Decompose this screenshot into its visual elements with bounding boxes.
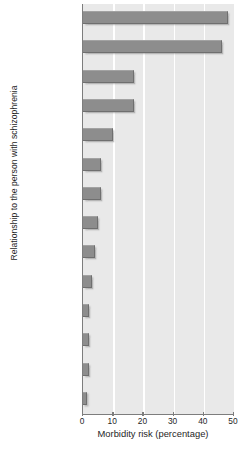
y-axis-title: Relationship to the person with schizoph… [9, 73, 19, 273]
bar [83, 40, 222, 53]
bar-rows: MZ twinsChild of twoaffected parentsDZ t… [83, 4, 234, 414]
bar [83, 70, 134, 83]
bar-row: DZ twins [83, 63, 234, 92]
bar-row: Grandchild [83, 209, 234, 238]
bar [83, 275, 92, 288]
bar [83, 304, 89, 317]
bar [83, 187, 101, 200]
bar [83, 158, 101, 171]
bar-row: Niece andnephew [83, 238, 234, 267]
x-tick-label-10: 10 [100, 416, 124, 426]
bar-row: Cousin [83, 268, 234, 297]
bar-row: Sibling [83, 121, 234, 150]
x-tick-label-20: 20 [130, 416, 154, 426]
bar-row: Child of twoaffected parents [83, 33, 234, 62]
x-tick-label-40: 40 [191, 416, 215, 426]
gridline-50 [234, 4, 235, 414]
bar-row: Uncle andaunt [83, 297, 234, 326]
bar [83, 392, 87, 405]
bar-row: MZ twins [83, 4, 234, 33]
bar [83, 333, 89, 346]
bar-row: Child of oneaffected parent [83, 92, 234, 121]
bar [83, 363, 89, 376]
plot-area: MZ twinsChild of twoaffected parentsDZ t… [82, 4, 234, 415]
bar-row: No relationship [83, 385, 234, 414]
bar-row: Grandparent [83, 326, 234, 355]
bar [83, 128, 113, 141]
bar [83, 11, 228, 24]
caption-clip: Figure 11.5 [0, 452, 246, 471]
x-axis-title: Morbidity risk (percentage) [60, 428, 246, 439]
x-tick-label-0: 0 [70, 416, 94, 426]
bar-row: Spouse [83, 355, 234, 384]
bar [83, 245, 95, 258]
bar-row: Parents [83, 150, 234, 179]
bar-row: Half-sibling [83, 180, 234, 209]
figure-schizophrenia-morbidity-risk: Relationship to the person with schizoph… [0, 0, 246, 471]
x-tick-label-30: 30 [161, 416, 185, 426]
bar [83, 216, 98, 229]
bar [83, 99, 134, 112]
x-tick-label-50: 50 [221, 416, 245, 426]
x-axis-ticks: 01020304050 [82, 416, 233, 428]
